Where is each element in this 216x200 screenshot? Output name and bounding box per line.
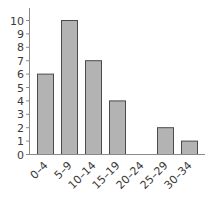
y-tick-label: 0 xyxy=(17,149,24,162)
bar-25–29 xyxy=(158,128,174,155)
y-tick-label: 1 xyxy=(17,135,24,148)
y-tick-label: 10 xyxy=(10,15,24,28)
y-tick-label: 5 xyxy=(17,82,24,95)
y-tick-label: 8 xyxy=(17,41,24,54)
y-tick-label: 6 xyxy=(17,68,24,81)
bar-0–4 xyxy=(38,74,54,154)
y-tick-label: 4 xyxy=(17,95,24,108)
bars xyxy=(38,21,198,155)
x-axis-labels: 0–45–910–1415–1920–2425–2930–34 xyxy=(28,159,195,192)
x-tick-label: 30–34 xyxy=(162,159,195,192)
x-tick-label: 0–4 xyxy=(28,159,51,182)
bar-10–14 xyxy=(86,61,102,155)
y-tick-label: 3 xyxy=(17,108,24,121)
bar-5–9 xyxy=(62,21,78,155)
bar-15–19 xyxy=(110,101,126,155)
y-tick-label: 2 xyxy=(17,122,24,135)
bar-30–34 xyxy=(182,141,198,154)
y-tick-label: 7 xyxy=(17,55,24,68)
bar-chart: 012345678910 0–45–910–1415–1920–2425–293… xyxy=(0,0,216,200)
y-axis-ticks: 012345678910 xyxy=(10,15,30,162)
y-tick-label: 9 xyxy=(17,28,24,41)
